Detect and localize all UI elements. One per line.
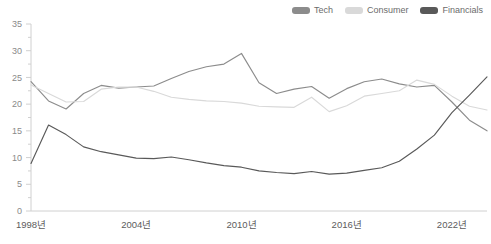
y-axis-tick-label: 20 [12, 99, 22, 109]
plot-svg: 05101520253035 1998년2004년2010년2016년2022년 [0, 0, 491, 244]
y-axis-tick-label: 35 [12, 19, 22, 29]
x-axis-labels: 1998년2004년2010년2016년2022년 [16, 219, 467, 230]
x-axis-tick-label: 2016년 [332, 219, 362, 230]
y-axis-tick-label: 30 [12, 46, 22, 56]
x-axis-tick-label: 2010년 [226, 219, 256, 230]
y-axis-tick-label: 5 [17, 179, 22, 189]
y-axis-ticks [26, 24, 31, 211]
series-line-consumer [31, 80, 487, 112]
y-axis-labels: 05101520253035 [12, 19, 22, 216]
x-axis-tick-label: 2022년 [437, 219, 467, 230]
series-line-tech [31, 53, 487, 130]
y-axis-tick-label: 0 [17, 206, 22, 216]
y-axis-tick-label: 10 [12, 153, 22, 163]
series-line-financials [31, 77, 487, 174]
plot-area: 05101520253035 1998년2004년2010년2016년2022년 [0, 0, 491, 244]
y-axis-tick-label: 15 [12, 126, 22, 136]
y-axis-tick-label: 25 [12, 73, 22, 83]
line-chart: Tech Consumer Financials 05101520253035 … [0, 0, 491, 244]
x-axis-tick-label: 1998년 [16, 219, 46, 230]
series-layer [31, 53, 487, 174]
x-axis-tick-label: 2004년 [121, 219, 151, 230]
